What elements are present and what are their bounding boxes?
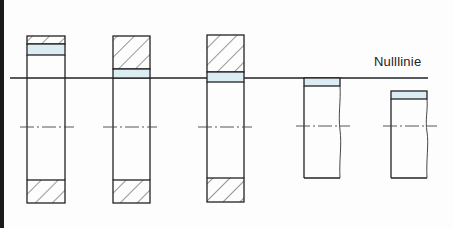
bore-1: [20, 36, 74, 203]
shaft-2: [383, 91, 437, 178]
diagram-drawing: [0, 0, 453, 228]
zero-line-label: Nulllinie: [374, 54, 421, 69]
bore-2: [103, 36, 157, 203]
shaft-1: [296, 78, 350, 178]
bore-3: [198, 35, 252, 202]
fit-tolerance-diagram: Nulllinie: [0, 0, 453, 228]
